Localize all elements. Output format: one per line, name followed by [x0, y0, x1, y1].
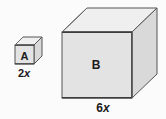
- cube-b: B: [62, 8, 157, 98]
- cube-a: A: [15, 37, 42, 64]
- geometry-figure: A 2x B 6x: [0, 0, 166, 119]
- cube-b-dim-variable: x: [102, 101, 111, 115]
- cube-a-dimension-label: 2x: [18, 67, 31, 79]
- cube-a-label: A: [21, 50, 29, 62]
- cube-a-dim-variable: x: [23, 67, 31, 79]
- cube-b-dimension-label: 6x: [96, 101, 111, 115]
- cubes-illustration: A 2x B 6x: [0, 0, 166, 119]
- cube-b-label: B: [92, 58, 101, 72]
